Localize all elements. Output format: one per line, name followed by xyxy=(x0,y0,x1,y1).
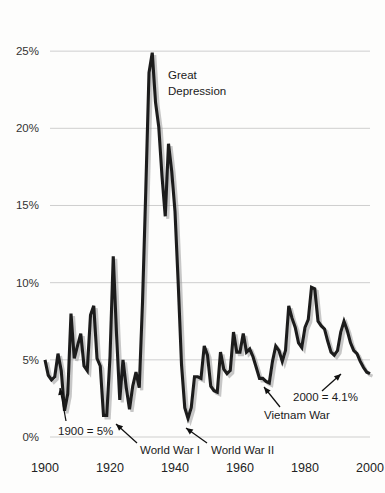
annotation-world-war-1: World War I xyxy=(140,444,200,456)
annotation-first-point: 1900 = 5% xyxy=(58,425,113,437)
y-tick-label: 20% xyxy=(16,122,39,134)
chart-canvas: 0%5%10%15%20%25% 19001920194019601980200… xyxy=(0,0,385,493)
annotation-world-war-2-arrow-head xyxy=(186,428,193,434)
annotation-great-depression-line2: Depression xyxy=(168,85,226,97)
y-tick-label: 5% xyxy=(22,354,39,366)
x-tick-label: 1980 xyxy=(291,461,319,475)
x-tick-label: 1900 xyxy=(31,461,59,475)
unemployment-chart: 0%5%10%15%20%25% 19001920194019601980200… xyxy=(0,0,385,493)
annotation-great-depression-line1: Great xyxy=(168,69,198,81)
y-tick-label: 0% xyxy=(22,431,39,443)
data-line xyxy=(45,53,370,419)
annotation-world-war-2: World War II xyxy=(211,444,274,456)
annotation-last-point: 2000 = 4.1% xyxy=(293,391,358,403)
x-tick-label: 2000 xyxy=(356,461,384,475)
annotation-vietnam-war: Vietnam War xyxy=(264,409,330,421)
x-tick-label: 1960 xyxy=(226,461,254,475)
x-tick-label: 1920 xyxy=(96,461,124,475)
y-tick-label: 15% xyxy=(16,199,39,211)
x-axis-labels-group: 190019201940196019802000 xyxy=(31,461,384,475)
y-tick-label: 10% xyxy=(16,277,39,289)
data-series-group xyxy=(45,53,373,421)
y-tick-label: 25% xyxy=(16,45,39,57)
x-tick-label: 1940 xyxy=(161,461,189,475)
y-axis-labels-group: 0%5%10%15%20%25% xyxy=(16,45,39,443)
